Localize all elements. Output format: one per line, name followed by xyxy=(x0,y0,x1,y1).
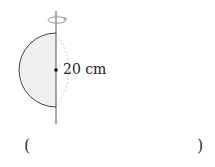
answer-area: ( ) xyxy=(0,136,215,158)
semicircle-shape xyxy=(19,33,56,107)
open-paren: ( xyxy=(24,136,30,156)
rotation-diagram: 20 cm xyxy=(0,0,215,130)
rotation-arrow-icon xyxy=(48,17,67,23)
semicircle-rotation-figure xyxy=(0,0,215,130)
diameter-label: 20 cm xyxy=(63,61,106,77)
close-paren: ) xyxy=(197,136,203,156)
answer-blank[interactable] xyxy=(36,136,194,156)
center-point xyxy=(54,68,58,72)
